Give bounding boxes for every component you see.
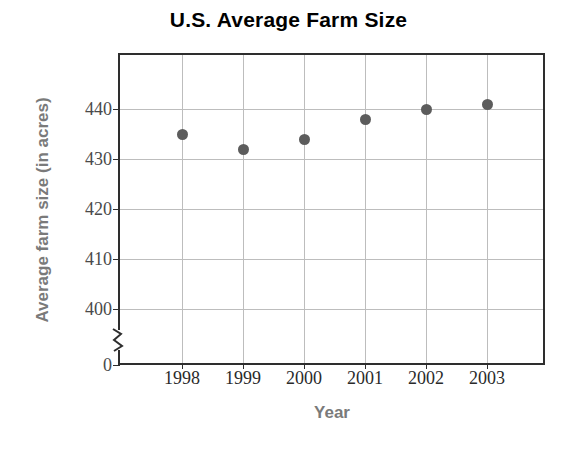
- y-tick-label: 420: [64, 200, 112, 218]
- x-gridline: [426, 55, 427, 363]
- y-tick-mark: [113, 159, 120, 160]
- y-tick-mark: [113, 365, 120, 366]
- y-tick-mark: [113, 209, 120, 210]
- y-gridline: [120, 159, 543, 160]
- y-gridline: [120, 259, 543, 260]
- x-gridline: [304, 55, 305, 363]
- x-gridline: [182, 55, 183, 363]
- data-point: [360, 114, 371, 125]
- y-tick-mark: [113, 259, 120, 260]
- y-gridline: [120, 109, 543, 110]
- x-gridline: [365, 55, 366, 363]
- y-tick-mark: [113, 309, 120, 310]
- x-axis-title: Year: [118, 403, 546, 423]
- y-tick-label: 430: [64, 150, 112, 168]
- x-gridline: [243, 55, 244, 363]
- data-point: [238, 144, 249, 155]
- y-tick-label: 400: [64, 300, 112, 318]
- y-tick-mark: [113, 109, 120, 110]
- chart-figure: U.S. Average Farm Size Average farm size…: [0, 0, 577, 455]
- data-point: [482, 99, 493, 110]
- data-point: [299, 134, 310, 145]
- y-gridline: [120, 309, 543, 310]
- plot-area: 4404304204104000199819992000200120022003: [118, 53, 545, 365]
- y-tick-label: 440: [64, 100, 112, 118]
- y-axis-title: Average farm size (in acres): [33, 50, 53, 370]
- y-gridline: [120, 209, 543, 210]
- data-point: [177, 129, 188, 140]
- x-tick-label: 2003: [447, 369, 527, 387]
- y-tick-label: 0: [64, 356, 112, 374]
- axis-break-zigzag-icon: [111, 327, 127, 353]
- data-point: [421, 104, 432, 115]
- y-tick-label: 410: [64, 250, 112, 268]
- chart-title: U.S. Average Farm Size: [0, 8, 577, 32]
